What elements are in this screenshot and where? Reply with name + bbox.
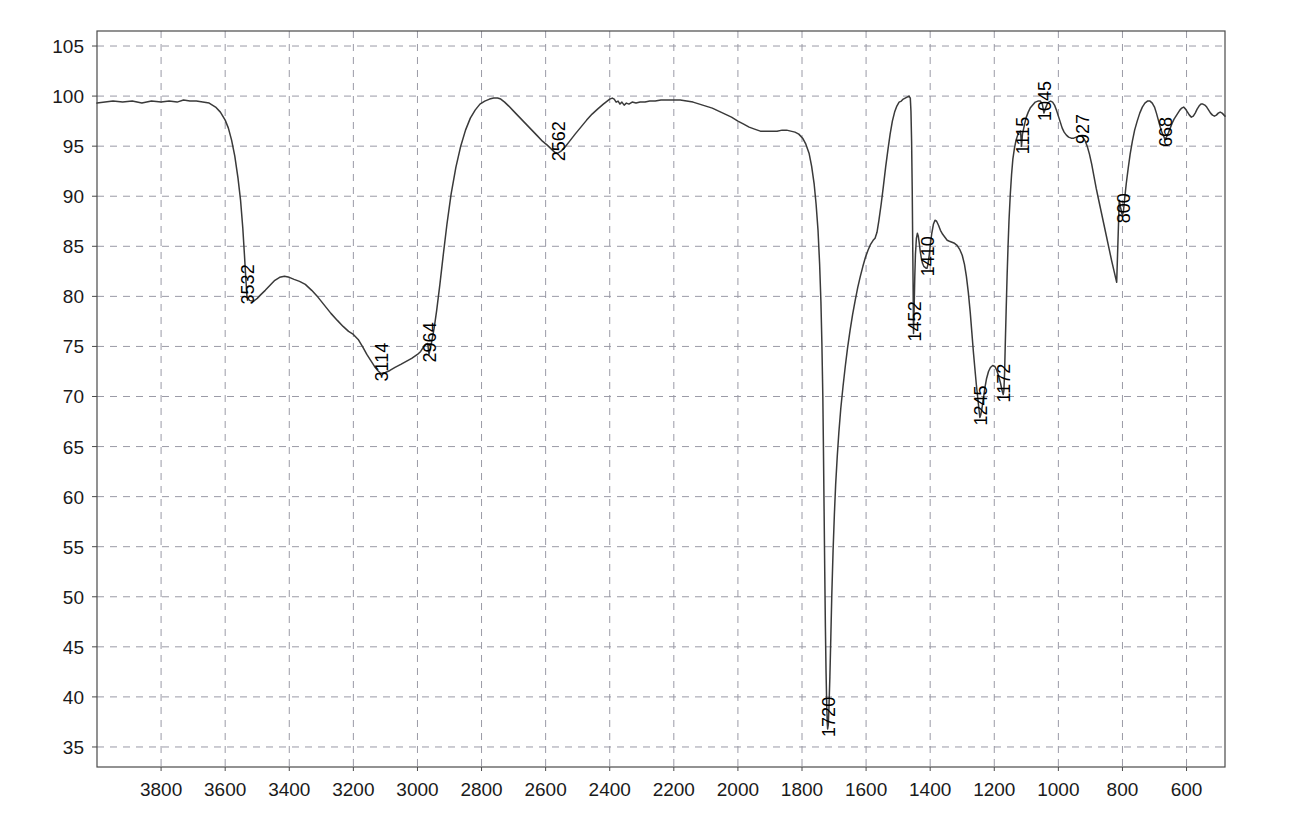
y-tick-label: 60 (63, 487, 84, 508)
x-tick-label: 3800 (140, 779, 182, 800)
y-tick-label: 50 (63, 587, 84, 608)
peak-label-1452: 1452 (905, 301, 925, 341)
x-tick-label: 3200 (332, 779, 374, 800)
y-tick-label: 75 (63, 336, 84, 357)
x-tick-label: 600 (1171, 779, 1203, 800)
y-tick-label: 80 (63, 286, 84, 307)
y-tick-label: 40 (63, 687, 84, 708)
x-tick-label: 1200 (973, 779, 1015, 800)
x-tick-label: 2200 (653, 779, 695, 800)
x-tick-label: 1800 (781, 779, 823, 800)
y-tick-label: 65 (63, 437, 84, 458)
x-tick-label: 1000 (1037, 779, 1079, 800)
peak-label-668: 668 (1156, 117, 1176, 147)
y-tick-label: 70 (63, 386, 84, 407)
peak-label-1172: 1172 (994, 364, 1014, 403)
x-tick-label: 1600 (845, 779, 887, 800)
peak-label-1045: 1045 (1035, 81, 1055, 121)
y-tick-label: 85 (63, 236, 84, 257)
x-tick-label: 1400 (909, 779, 951, 800)
x-tick-label: 2600 (524, 779, 566, 800)
y-tick-label: 100 (52, 86, 84, 107)
peak-label-1115: 1115 (1013, 117, 1033, 154)
chart-background (0, 0, 1289, 827)
x-tick-label: 3000 (396, 779, 438, 800)
x-tick-label: 2400 (589, 779, 631, 800)
x-tick-label: 800 (1107, 779, 1139, 800)
peak-label-1720: 1720 (819, 697, 839, 737)
peak-label-3532: 3532 (238, 264, 258, 304)
peak-label-2964: 2964 (420, 322, 440, 362)
y-tick-label: 90 (63, 186, 84, 207)
peak-label-1245: 1245 (971, 385, 991, 425)
spectrum-chart: 3800360034003200300028002600240022002000… (0, 0, 1289, 827)
peak-label-3114: 3114 (372, 343, 392, 382)
y-tick-label: 105 (52, 36, 84, 57)
peak-label-800: 800 (1114, 193, 1134, 223)
y-tick-label: 95 (63, 136, 84, 157)
peak-label-927: 927 (1073, 114, 1093, 144)
x-tick-label: 3400 (268, 779, 310, 800)
y-tick-label: 55 (63, 537, 84, 558)
peak-label-1410: 1410 (918, 236, 938, 276)
peak-label-2562: 2562 (549, 121, 569, 161)
x-tick-label: 2000 (717, 779, 759, 800)
y-tick-label: 35 (63, 737, 84, 758)
x-tick-label: 3600 (204, 779, 246, 800)
ir-spectrum-figure: 3800360034003200300028002600240022002000… (0, 0, 1289, 827)
x-tick-label: 2800 (460, 779, 502, 800)
y-tick-label: 45 (63, 637, 84, 658)
